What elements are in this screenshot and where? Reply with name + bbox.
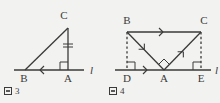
geometry-figure-sheet: C B A l 3 (0, 0, 220, 103)
figure-4-caption: 4 (109, 86, 125, 96)
figure-4-caption-number: 4 (120, 86, 125, 96)
cjk-glyph-tu (109, 87, 117, 95)
vertex-label-C: C (60, 9, 67, 21)
cjk-glyph-tu (4, 87, 12, 95)
vertex-label-B: B (123, 14, 130, 26)
figure-4: B C D A E l 4 (105, 0, 220, 103)
right-angle-at-E (193, 62, 201, 70)
vertex-label-D: D (123, 72, 131, 84)
segment-BC (25, 28, 68, 70)
figure-3-caption: 3 (4, 86, 20, 96)
arrow-marker-AC (178, 49, 187, 57)
figure-3-drawing: C B A l (0, 0, 110, 84)
right-angle-at-D (127, 62, 135, 70)
vertex-label-A: A (160, 72, 168, 84)
figure-3-caption-number: 3 (15, 86, 20, 96)
right-angle-at-A (159, 59, 170, 70)
figure-3: C B A l 3 (0, 0, 110, 103)
vertex-label-C: C (200, 14, 207, 26)
right-angle-at-A (60, 62, 68, 70)
vertex-label-A: A (64, 72, 72, 84)
vertex-label-E: E (198, 72, 205, 84)
line-label-l: l (215, 64, 218, 76)
vertex-label-B: B (20, 72, 27, 84)
figure-4-drawing: B C D A E l (105, 0, 220, 84)
line-label-l: l (90, 64, 93, 76)
